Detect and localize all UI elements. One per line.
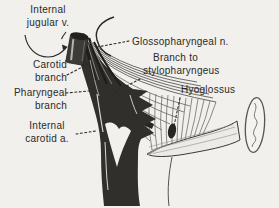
cut-vessel-stump: [167, 123, 177, 139]
label-line: Pharyngeal: [7, 87, 67, 100]
label-glossopharyngeal-nerve: Glossopharyngeal n.: [132, 36, 228, 49]
label-internal-jugular-vein: Internal jugular v.: [18, 4, 78, 29]
leader-glossopharyngeal: [97, 41, 129, 47]
label-line: branch: [7, 100, 67, 113]
leader-internal-carotid: [76, 131, 96, 134]
label-line: Internal: [18, 4, 78, 17]
leader-pharyngeal-branch: [66, 91, 89, 93]
label-line: Internal: [16, 120, 78, 133]
anatomical-figure: Internal jugular v. Glossopharyngeal n. …: [0, 0, 279, 208]
label-line: Carotid: [22, 59, 67, 72]
label-branch-to-stylopharyngeus-line1: Branch to: [153, 52, 198, 65]
jugular-leader-curve: [25, 32, 68, 57]
label-pharyngeal-branch: Pharyngeal branch: [7, 87, 67, 112]
label-line: jugular v.: [18, 17, 78, 30]
label-branch-to-stylopharyngeus-line2: stylopharyngeus: [143, 65, 220, 78]
label-hyoglossus: Hyoglossus: [181, 84, 235, 97]
label-carotid-branch: Carotid branch: [22, 59, 67, 84]
label-line: carotid a.: [16, 133, 78, 146]
thin-descending-line: [168, 157, 172, 206]
label-internal-carotid-artery: Internal carotid a.: [16, 120, 78, 145]
artist-signature: [244, 97, 267, 153]
label-line: branch: [22, 72, 67, 85]
